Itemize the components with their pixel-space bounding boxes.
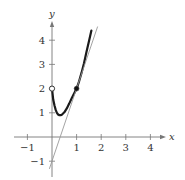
x-tick-label: 1 <box>73 142 79 153</box>
y-tick-label: 3 <box>39 59 45 70</box>
y-axis-arrow-icon <box>50 21 54 27</box>
y-tick-label: 2 <box>39 83 45 94</box>
x-tick-label: 3 <box>123 142 129 153</box>
x-tick-label: 2 <box>98 142 104 153</box>
x-axis-label: x <box>169 131 175 142</box>
chart: x y −11234−11234 <box>0 0 185 180</box>
y-tick-label: −1 <box>30 156 45 167</box>
y-tick-label: 1 <box>39 107 45 118</box>
x-tick-label: −1 <box>20 142 35 153</box>
y-tick-label: 4 <box>39 35 45 46</box>
x-tick-label: 4 <box>147 142 153 153</box>
x-axis: x <box>14 131 175 142</box>
y-axis-label: y <box>48 8 55 19</box>
open-point <box>49 86 54 91</box>
x-axis-arrow-icon <box>160 135 166 139</box>
tangent-point <box>74 86 79 91</box>
